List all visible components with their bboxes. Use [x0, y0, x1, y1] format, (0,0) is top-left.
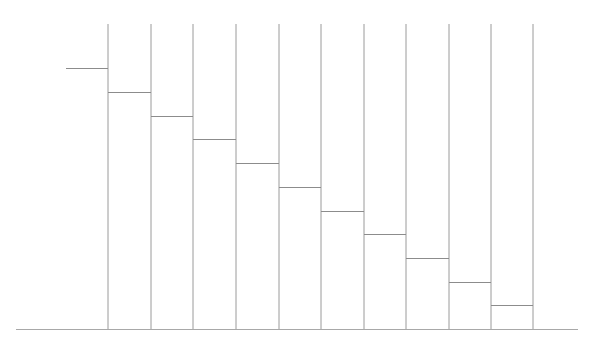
- boundary-lines: [108, 24, 533, 329]
- step-series: [66, 69, 533, 306]
- step-chart: [0, 0, 601, 350]
